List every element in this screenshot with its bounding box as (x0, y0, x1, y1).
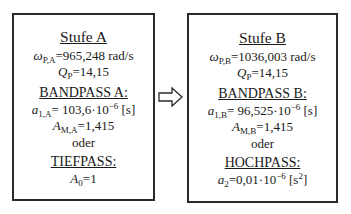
stage-a-q: QP=14,15 (58, 64, 109, 80)
stage-a-bandpass-label: BANDPASS A: (39, 84, 128, 102)
stage-b-highpass-label: HOCHPASS: (225, 154, 301, 172)
stage-a-a1: a1,A= 103,6·10−6 [s] (32, 102, 135, 118)
stage-b-a1: a1,B= 96,525·10−6 [s] (208, 103, 317, 119)
stage-b-a2: a2=0,01·10−6 [s2] (218, 172, 307, 188)
stage-a-title: Stufe A (60, 27, 107, 47)
stage-b-box: Stufe B ωP,B=1036,003 rad/s QP=14,15 BAN… (187, 13, 338, 203)
stage-a-oder: oder (72, 134, 95, 151)
stage-b-q: QP=14,15 (237, 65, 288, 81)
stage-a-lowpass-label: TIEFPASS: (51, 153, 117, 171)
stage-b-am: AM,B=1,415 (232, 119, 293, 135)
stage-a-box: Stufe A ωP,A=965,248 rad/s QP=14,15 BAND… (12, 13, 155, 201)
stage-a-a0: A0=1 (70, 171, 96, 187)
stage-b-bandpass-label: BANDPASS B: (218, 85, 307, 103)
right-arrow-icon (158, 86, 184, 108)
stage-b-title: Stufe B (239, 28, 286, 48)
stage-a-am: AM,A=1,415 (53, 118, 114, 134)
stage-a-omega: ωP,A=965,248 rad/s (33, 48, 133, 64)
stage-b-oder: oder (251, 135, 274, 152)
stage-b-omega: ωP,B=1036,003 rad/s (209, 49, 315, 65)
